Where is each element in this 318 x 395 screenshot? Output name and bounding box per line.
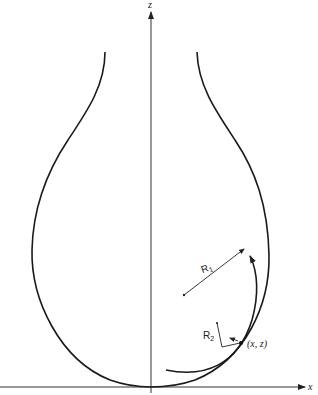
x-axis-label: x <box>307 381 313 392</box>
point-label: (x, z) <box>247 338 268 350</box>
r2-direction-arrow <box>230 338 238 341</box>
surface-point <box>239 341 243 345</box>
z-axis-label: z <box>147 0 152 10</box>
drop-diagram: z x R1 R2 (x, z) <box>0 0 318 395</box>
drop-profile-left <box>32 52 151 387</box>
r2-label: R2 <box>203 330 214 342</box>
r1-curvature-arc <box>166 256 257 372</box>
r2-radius-line <box>217 323 222 347</box>
r2-normal-segment <box>222 343 240 347</box>
